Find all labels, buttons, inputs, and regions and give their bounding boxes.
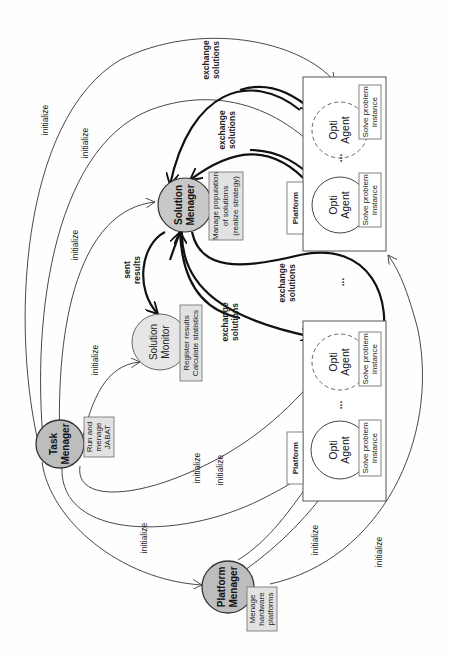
note-text: of solutions <box>221 186 230 226</box>
label-initialize: initialize <box>192 453 202 484</box>
agent-note: instance <box>370 344 379 374</box>
platform-bottom-label: Platform <box>291 442 300 474</box>
diagram-canvas: Platform Opti Agent Solve problem instan… <box>0 0 450 654</box>
label-initialize: initialize <box>70 230 80 261</box>
label-exchange: exchange <box>220 302 230 341</box>
note-text: platforms <box>266 593 275 626</box>
agent-note: Solve problem <box>361 86 370 137</box>
label-initialize: initialize <box>374 537 384 568</box>
edge-task-to-platform-manager <box>42 462 202 585</box>
label-exchange: solutions <box>287 264 297 302</box>
label-exchange: solutions <box>230 303 240 341</box>
node-title: Platform <box>216 567 227 608</box>
agent-title: Opti <box>327 440 339 459</box>
platform-bottom: Platform Opti Agent Solve problem instan… <box>287 321 386 501</box>
agent-note: Solve problem <box>361 422 370 473</box>
node-title: Solution <box>148 324 159 360</box>
note-text: menage <box>94 422 103 451</box>
agent-title: Agent <box>339 116 351 144</box>
agent-title: Opti <box>327 195 339 214</box>
label-exchange: exchange <box>277 263 287 302</box>
note-text: (realize strategy) <box>231 176 240 236</box>
note-text: hardware <box>257 592 266 626</box>
edge-exchange-top-solid-to-sm <box>190 154 310 185</box>
node-title: Menager <box>60 423 71 464</box>
agent-title: Agent <box>339 436 351 464</box>
platform-manager: Platform Menager Menage hardware platfor… <box>202 561 277 631</box>
edge-sent-results <box>143 232 165 314</box>
label-exchange: solutions <box>211 41 221 79</box>
agent-title: Opti <box>327 120 339 139</box>
note-text: Calculate statistics <box>191 310 200 376</box>
node-title: Monitor <box>160 325 171 359</box>
label-sent-results: results <box>132 256 142 284</box>
solution-monitor: Solution Monitor Register results Calcul… <box>132 305 202 381</box>
agent-note: instance <box>370 185 379 215</box>
agent-note: Solve problem <box>361 174 370 225</box>
agent-note: Solve problem <box>361 333 370 384</box>
edge-task-to-agent-bottom-solid <box>62 464 318 527</box>
node-title: Menager <box>185 184 196 225</box>
label-initialize: initialize <box>40 105 50 136</box>
note-text: Run and <box>85 422 94 452</box>
task-manager: Task Menager Run and menage JABAT <box>36 417 114 468</box>
agent-note: instance <box>370 97 379 127</box>
architecture-diagram: Platform Opti Agent Solve problem instan… <box>0 0 450 654</box>
agent-note: instance <box>370 433 379 463</box>
node-title: Task <box>48 433 59 455</box>
agent-title: Agent <box>339 191 351 219</box>
note-text: Menage <box>248 594 257 623</box>
platforms-ellipsis: ... <box>335 278 346 287</box>
label-initialize: initialize <box>80 128 90 159</box>
label-initialize: initialize <box>139 523 149 554</box>
note-text: JABAT <box>103 425 112 449</box>
agents-ellipsis: ... <box>333 154 344 163</box>
agents-ellipsis: ... <box>333 401 344 410</box>
label-initialize: initialize <box>90 345 100 376</box>
note-text: Register results <box>182 315 191 371</box>
node-title: Menager <box>228 566 239 607</box>
edge-sent-results-return <box>170 232 180 260</box>
solution-manager: Solution Menager Manage population of so… <box>158 172 243 240</box>
platform-top-label: Platform <box>291 192 300 224</box>
label-exchange: solutions <box>227 111 237 149</box>
label-initialize: initialize <box>310 525 320 556</box>
label-exchange: exchange <box>217 110 227 149</box>
label-sent-results: sent <box>122 261 132 279</box>
label-exchange: exchange <box>201 40 211 79</box>
node-title: Solution <box>173 185 184 225</box>
agent-title: Opti <box>327 352 339 371</box>
label-initialize: initialize <box>215 455 225 486</box>
note-text: Manage population <box>211 172 220 240</box>
agent-title: Agent <box>339 348 351 376</box>
